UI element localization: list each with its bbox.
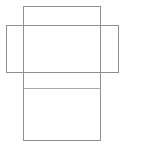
box-net-svg [0,0,142,149]
box-net-diagram-canvas [0,0,142,149]
horizontal-panel-rect [7,26,119,73]
